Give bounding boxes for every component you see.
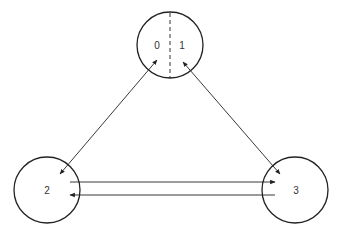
node-label-2: 2 (44, 185, 50, 196)
state-diagram: 0 1 2 3 (0, 0, 343, 233)
node-0-1: 0 1 (137, 12, 203, 78)
node-label-1: 1 (179, 40, 185, 51)
node-2: 2 (14, 157, 80, 223)
node-label-0: 0 (154, 40, 160, 51)
edge-1-3-bidirectional (183, 62, 280, 174)
node-label-3: 3 (293, 185, 299, 196)
node-3: 3 (262, 157, 328, 223)
edge-2-0-bidirectional (60, 60, 157, 174)
